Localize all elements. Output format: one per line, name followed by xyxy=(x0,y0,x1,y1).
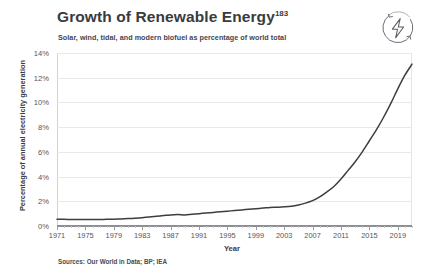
x-axis-tick-major xyxy=(85,226,86,230)
y-axis-tick-label: 0% xyxy=(9,222,49,231)
x-axis-tick-major xyxy=(369,226,370,230)
x-axis-tick-major xyxy=(199,226,200,230)
x-axis-tick-minor xyxy=(78,226,79,228)
renewable-energy-logo-icon xyxy=(376,6,420,50)
x-axis-tick-label: 1991 xyxy=(191,231,207,240)
x-axis-tick-minor xyxy=(298,226,299,228)
x-axis-tick-minor xyxy=(178,226,179,228)
x-axis-tick-major xyxy=(313,226,314,230)
x-axis-tick-major xyxy=(227,226,228,230)
x-axis-tick-label: 1999 xyxy=(248,231,264,240)
x-axis-tick-minor xyxy=(348,226,349,228)
x-axis-tick-label: 1995 xyxy=(219,231,235,240)
x-axis-tick-minor xyxy=(320,226,321,228)
x-axis-tick-major xyxy=(171,226,172,230)
x-axis-tick-minor xyxy=(306,226,307,228)
x-axis-tick-minor xyxy=(121,226,122,228)
chart-page: Growth of Renewable Energy183 Solar, win… xyxy=(0,0,428,279)
x-axis-tick-minor xyxy=(412,226,413,228)
y-axis-tick-label: 6% xyxy=(9,147,49,156)
data-line-series xyxy=(57,53,412,226)
plot-area: 0%2%4%6%8%10%12%14% 19711975197919831987… xyxy=(57,53,412,226)
x-axis-tick-minor xyxy=(327,226,328,228)
x-axis-tick-minor xyxy=(149,226,150,228)
x-axis-tick-minor xyxy=(291,226,292,228)
x-axis-tick-minor xyxy=(206,226,207,228)
x-axis-tick-minor xyxy=(235,226,236,228)
x-axis-tick-minor xyxy=(391,226,392,228)
x-axis-tick-minor xyxy=(128,226,129,228)
x-axis-tick-label: 2011 xyxy=(333,231,349,240)
x-axis-tick-minor xyxy=(107,226,108,228)
chart-subtitle: Solar, wind, tidal, and modern biofuel a… xyxy=(58,33,286,42)
chart-title: Growth of Renewable Energy183 xyxy=(57,8,288,26)
y-axis-tick-label: 4% xyxy=(9,172,49,181)
x-axis-tick-major xyxy=(341,226,342,230)
x-axis-tick-label: 2007 xyxy=(304,231,320,240)
x-axis-tick-minor xyxy=(384,226,385,228)
x-axis-tick-minor xyxy=(64,226,65,228)
x-axis-tick-major xyxy=(284,226,285,230)
x-axis-tick-major xyxy=(256,226,257,230)
y-axis-tick-label: 12% xyxy=(9,73,49,82)
x-axis-tick-minor xyxy=(100,226,101,228)
y-axis-tick-label: 2% xyxy=(9,197,49,206)
x-axis-tick-minor xyxy=(192,226,193,228)
x-axis-tick-minor xyxy=(405,226,406,228)
x-axis-tick-minor xyxy=(270,226,271,228)
x-axis-title: Year xyxy=(0,244,428,253)
series-line-renewables xyxy=(57,64,412,219)
x-axis-tick-minor xyxy=(362,226,363,228)
x-axis-tick-minor xyxy=(213,226,214,228)
x-axis-tick-minor xyxy=(220,226,221,228)
x-axis-tick-major xyxy=(142,226,143,230)
x-axis-tick-minor xyxy=(249,226,250,228)
y-axis-tick-label: 10% xyxy=(9,98,49,107)
x-axis-tick-minor xyxy=(242,226,243,228)
x-axis-tick-label: 1971 xyxy=(49,231,65,240)
x-axis-tick-label: 1979 xyxy=(106,231,122,240)
x-axis-tick-minor xyxy=(334,226,335,228)
x-axis-tick-major xyxy=(398,226,399,230)
x-axis-tick-minor xyxy=(355,226,356,228)
chart-title-superscript: 183 xyxy=(275,9,288,18)
x-axis-tick-label: 1983 xyxy=(134,231,150,240)
x-axis-tick-label: 1987 xyxy=(162,231,178,240)
x-axis-tick-minor xyxy=(156,226,157,228)
x-axis-tick-label: 2019 xyxy=(390,231,406,240)
x-axis-tick-label: 2015 xyxy=(361,231,377,240)
x-axis-tick-major xyxy=(57,226,58,230)
x-axis-tick-minor xyxy=(277,226,278,228)
x-axis-tick-minor xyxy=(93,226,94,228)
x-axis-tick-label: 1975 xyxy=(77,231,93,240)
x-axis-tick-minor xyxy=(135,226,136,228)
y-axis-tick-label: 14% xyxy=(9,49,49,58)
x-axis-tick-minor xyxy=(71,226,72,228)
x-axis-tick-minor xyxy=(164,226,165,228)
sources-note: Sources: Our World in Data; BP; IEA xyxy=(58,258,167,265)
chart-title-text: Growth of Renewable Energy xyxy=(57,8,275,25)
x-axis-tick-minor xyxy=(185,226,186,228)
x-axis-tick-major xyxy=(114,226,115,230)
x-axis-tick-minor xyxy=(263,226,264,228)
x-axis-tick-label: 2003 xyxy=(276,231,292,240)
x-axis-tick-minor xyxy=(377,226,378,228)
y-axis-tick-label: 8% xyxy=(9,123,49,132)
